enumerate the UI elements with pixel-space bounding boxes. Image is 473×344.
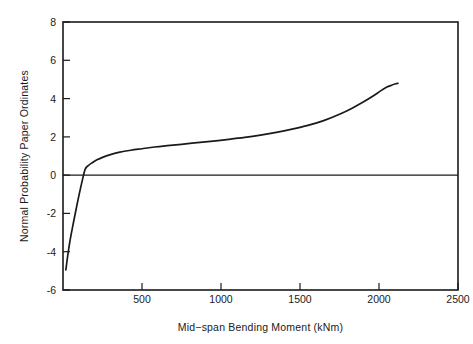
y-tick-label-4: 4 [50, 93, 56, 105]
y-tick-label-6: 6 [50, 54, 56, 66]
x-tick-label-1500: 1500 [288, 293, 312, 305]
x-tick-label-2000: 2000 [367, 293, 391, 305]
y-tick-label-minus2: -2 [47, 207, 56, 219]
x-tick-label-1000: 1000 [209, 293, 233, 305]
y-tick-label-0: 0 [50, 169, 56, 181]
y-tick-label-2: 2 [50, 131, 56, 143]
x-tick-label-2500: 2500 [446, 293, 470, 305]
normal-probability-plot: 8 6 4 2 0 -2 -4 -6 500 1000 1500 2000 25… [0, 0, 473, 344]
y-tick-label-8: 8 [50, 16, 56, 28]
chart-background [0, 0, 473, 344]
x-tick-label-500: 500 [133, 293, 151, 305]
x-axis-title: Mid−span Bending Moment (kNm) [178, 321, 343, 333]
y-tick-label-minus6: -6 [47, 284, 56, 296]
y-axis-title: Normal Probability Paper Ordinates [18, 70, 30, 242]
y-tick-label-minus4: -4 [47, 246, 56, 258]
chart-figure: 8 6 4 2 0 -2 -4 -6 500 1000 1500 2000 25… [0, 0, 473, 344]
